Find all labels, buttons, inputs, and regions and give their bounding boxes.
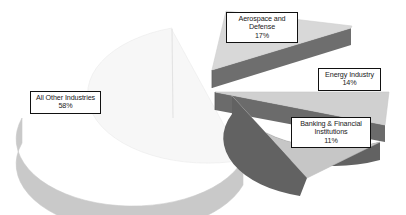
pie-label-all-other-industries-value: 58% [34, 102, 97, 110]
pie-label-banking-financial-institutions-value: 11% [295, 137, 367, 145]
pie-label-all-other-industries[interactable]: All Other Industries 58% [30, 91, 101, 114]
pie-slice-all-other-industries[interactable] [16, 28, 243, 215]
pie-label-aerospace-and-defense[interactable]: Aerospace and Defense 17% [226, 12, 298, 43]
pie-label-energy-industry[interactable]: Energy Industry 14% [318, 68, 381, 91]
pie-label-energy-industry-value: 14% [322, 79, 377, 87]
pie-chart: All Other Industries 58% Aerospace and D… [0, 0, 406, 215]
pie-label-banking-financial-institutions[interactable]: Banking & Financial Institutions 11% [291, 117, 371, 148]
pie-label-aerospace-and-defense-value: 17% [230, 32, 294, 40]
